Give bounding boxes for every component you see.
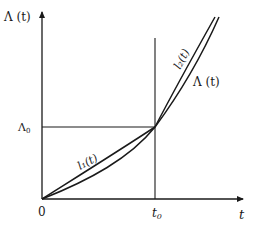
y-axis-label: Λ (t) bbox=[3, 10, 31, 24]
origin-label: 0 bbox=[38, 205, 46, 219]
l2-curve-label: l₂(t) bbox=[171, 47, 192, 72]
l2-curve bbox=[155, 17, 215, 127]
diagram: Λ (t) t 0 t0 Λ0 Λ (t) l₁(t) l₂(t) bbox=[0, 0, 255, 230]
lambda-curve-label: Λ (t) bbox=[192, 75, 220, 89]
x-axis-label: t bbox=[239, 207, 245, 222]
t0-tick-label: t0 bbox=[152, 206, 162, 221]
lambda-curve bbox=[42, 17, 219, 199]
lambda0-tick-label: Λ0 bbox=[17, 121, 30, 135]
